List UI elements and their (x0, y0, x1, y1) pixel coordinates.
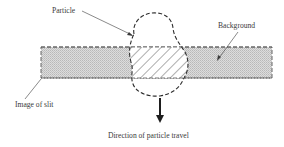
direction-arrow-head (156, 115, 164, 123)
particle-leader-line (82, 11, 132, 35)
direction-label: Direction of particle travel (108, 131, 189, 140)
image-of-slit-label: Image of slit (15, 100, 54, 109)
background-label: Background (218, 21, 255, 30)
slit-leader-line (25, 79, 41, 99)
particle-label: Particle (52, 6, 76, 15)
particle-slit-diagram: Particle Background Image of slit Direct… (0, 0, 284, 147)
particle-leader-arrowhead (127, 32, 133, 36)
